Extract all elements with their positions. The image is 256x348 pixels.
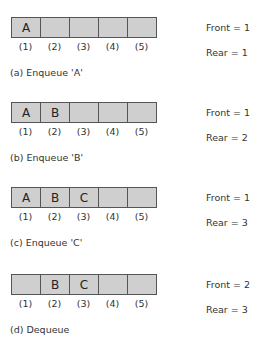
queue-cell: A (12, 188, 41, 207)
index-label: (3) (69, 298, 98, 309)
queue-cell (70, 18, 99, 37)
index-label: (4) (98, 41, 127, 52)
queue-cell: C (70, 275, 99, 294)
rear-pointer: Rear = 3 (206, 217, 248, 228)
front-pointer: Front = 1 (206, 22, 250, 33)
queue-cell (128, 103, 156, 122)
queue-cell (99, 103, 128, 122)
index-label: (5) (127, 41, 156, 52)
index-label: (5) (127, 126, 156, 137)
front-pointer: Front = 1 (206, 192, 250, 203)
queue-cell (128, 188, 156, 207)
index-label: (3) (69, 211, 98, 222)
queue-cell (128, 18, 156, 37)
index-label: (4) (98, 298, 127, 309)
queue-cell (128, 275, 156, 294)
index-labels: (1) (2) (3) (4) (5) (11, 41, 156, 52)
front-pointer: Front = 2 (206, 279, 250, 290)
panel-caption: (b) Enqueue 'B' (10, 152, 83, 163)
panel-enqueue-a: A (1) (2) (3) (4) (5) Front = 1 Rear = 1… (0, 17, 256, 104)
index-labels: (1) (2) (3) (4) (5) (11, 126, 156, 137)
index-label: (3) (69, 126, 98, 137)
queue-cell (99, 188, 128, 207)
index-label: (2) (40, 126, 69, 137)
index-label: (5) (127, 211, 156, 222)
index-label: (1) (11, 298, 40, 309)
index-label: (2) (40, 211, 69, 222)
index-label: (4) (98, 126, 127, 137)
queue-array: A (11, 17, 157, 38)
index-label: (2) (40, 298, 69, 309)
queue-cell: B (41, 103, 70, 122)
panel-enqueue-b: A B (1) (2) (3) (4) (5) Front = 1 Rear =… (0, 102, 256, 189)
panel-caption: (c) Enqueue 'C' (10, 237, 82, 248)
queue-cell (99, 275, 128, 294)
index-labels: (1) (2) (3) (4) (5) (11, 211, 156, 222)
index-label: (2) (40, 41, 69, 52)
queue-cell (12, 275, 41, 294)
index-label: (4) (98, 211, 127, 222)
front-pointer: Front = 1 (206, 107, 250, 118)
rear-pointer: Rear = 2 (206, 132, 248, 143)
index-label: (3) (69, 41, 98, 52)
panel-caption: (d) Dequeue (10, 324, 69, 335)
queue-cell: A (12, 18, 41, 37)
queue-cell (41, 18, 70, 37)
panel-dequeue: B C (1) (2) (3) (4) (5) Front = 2 Rear =… (0, 274, 256, 348)
queue-array: A B (11, 102, 157, 123)
queue-cell: C (70, 188, 99, 207)
index-label: (1) (11, 126, 40, 137)
panel-enqueue-c: A B C (1) (2) (3) (4) (5) Front = 1 Rear… (0, 187, 256, 274)
rear-pointer: Rear = 1 (206, 47, 248, 58)
index-labels: (1) (2) (3) (4) (5) (11, 298, 156, 309)
panel-caption: (a) Enqueue 'A' (10, 67, 83, 78)
rear-pointer: Rear = 3 (206, 304, 248, 315)
index-label: (1) (11, 211, 40, 222)
queue-cell (70, 103, 99, 122)
index-label: (1) (11, 41, 40, 52)
queue-cell: B (41, 188, 70, 207)
queue-cell: A (12, 103, 41, 122)
queue-array: A B C (11, 187, 157, 208)
queue-array: B C (11, 274, 157, 295)
queue-cell: B (41, 275, 70, 294)
index-label: (5) (127, 298, 156, 309)
queue-cell (99, 18, 128, 37)
